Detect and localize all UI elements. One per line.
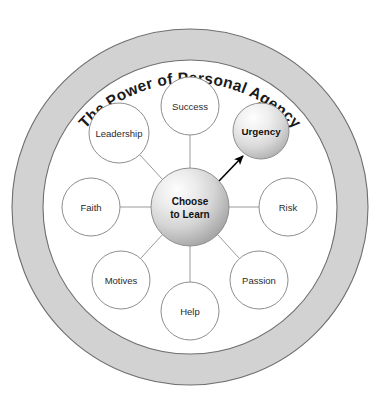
node-success-label: Success: [172, 101, 208, 112]
node-success[interactable]: Success: [161, 77, 219, 135]
node-faith-label: Faith: [80, 202, 101, 213]
node-passion-label: Passion: [242, 275, 276, 286]
node-urgency-label: Urgency: [241, 126, 281, 137]
node-leadership[interactable]: Leadership: [89, 103, 149, 163]
hub-choose-to-learn[interactable]: Choose to Learn: [151, 168, 229, 246]
node-motives[interactable]: Motives: [92, 251, 150, 309]
personal-agency-diagram: The Power of Personal Agency Success Lea…: [0, 0, 381, 402]
node-leadership-label: Leadership: [95, 128, 142, 139]
hub-label-line1: Choose: [172, 196, 209, 207]
node-risk-label: Risk: [279, 202, 298, 213]
hub-circle[interactable]: [151, 168, 229, 246]
node-help-label: Help: [180, 306, 200, 317]
node-motives-label: Motives: [105, 275, 138, 286]
diagram-canvas: The Power of Personal Agency Success Lea…: [0, 0, 381, 402]
node-passion[interactable]: Passion: [230, 251, 288, 309]
node-urgency[interactable]: Urgency: [233, 103, 289, 159]
node-help[interactable]: Help: [161, 282, 219, 340]
hub-label-line2: to Learn: [170, 209, 209, 220]
node-risk[interactable]: Risk: [259, 178, 317, 236]
node-faith[interactable]: Faith: [62, 178, 120, 236]
